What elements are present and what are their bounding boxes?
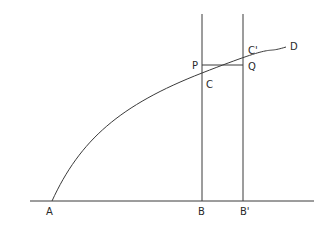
label-d: D	[290, 41, 298, 52]
label-a: A	[46, 206, 53, 217]
diagram-canvas: A B B' P Q C C' D	[0, 0, 314, 227]
label-q: Q	[248, 61, 256, 72]
label-b: B	[198, 206, 205, 217]
label-c-prime: C'	[248, 45, 258, 56]
label-b-prime: B'	[240, 206, 250, 217]
label-p: P	[192, 60, 198, 71]
label-c: C	[206, 79, 213, 90]
